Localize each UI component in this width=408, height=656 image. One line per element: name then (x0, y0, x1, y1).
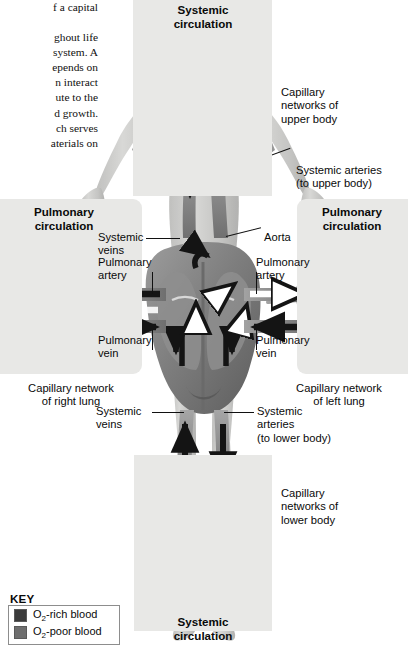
key-legend-label-o2-poor: O2-poor blood (33, 625, 102, 640)
label-line: networks of (281, 99, 338, 111)
label-line: (to upper body) (296, 177, 372, 189)
label-line: vein (98, 347, 119, 359)
label-line: vein (256, 347, 277, 359)
label-capillary-networks-lower-body: Capillary networks of lower body (281, 487, 397, 527)
swatch-o2-rich-blood (14, 609, 27, 622)
body-text-line: system. A (0, 45, 98, 60)
key-legend-title: KEY (10, 592, 34, 605)
label-line: Systemic (96, 405, 141, 417)
label-line: Capillary network (28, 382, 114, 394)
label-line: Systemic arteries (296, 164, 382, 176)
label-line: Systemic (257, 405, 302, 417)
panel-systemic-circulation-lower (134, 455, 272, 631)
label-pulmonary-artery-right: Pulmonary artery (256, 256, 330, 283)
label-line: circulation (35, 219, 94, 232)
label-line: artery (98, 269, 127, 281)
label-line: Pulmonary (98, 334, 151, 346)
key-legend-label-o2-rich: O2-rich blood (33, 608, 97, 623)
label-systemic-veins-upper: Systemic veins (98, 231, 168, 258)
label-line: Pulmonary (98, 256, 151, 268)
label-line: Pulmonary (34, 205, 94, 218)
body-text-line: ute to the (0, 90, 98, 105)
label-line: Systemic (178, 3, 229, 16)
label-line: upper body (281, 113, 337, 125)
label-line: veins (96, 418, 122, 430)
label-line: Capillary (281, 86, 325, 98)
key-legend: KEY O2-rich blood O2-poor blood (8, 592, 121, 646)
label-systemic-arteries-upper-body: Systemic arteries (to upper body) (296, 164, 408, 191)
label-line: Systemic (178, 615, 229, 628)
body-text-column: f a capital ghout life system. A epends … (0, 0, 98, 151)
label-line: circulation (174, 17, 233, 30)
label-systemic-veins-lower: Systemic veins (96, 405, 166, 432)
label-pulmonary-circulation-right: Pulmonary circulation (302, 205, 402, 233)
label-aorta: Aorta (264, 231, 324, 244)
label-line: Pulmonary (256, 334, 309, 346)
label-line: veins (98, 244, 124, 256)
label-line: Systemic (98, 231, 143, 243)
body-text-line: d growth. (0, 106, 98, 121)
label-systemic-circulation-top: Systemic circulation (150, 3, 256, 31)
label-pulmonary-circulation-left: Pulmonary circulation (12, 205, 116, 233)
label-pulmonary-vein-left: Pulmonary vein (98, 334, 172, 361)
label-line: arteries (257, 418, 294, 430)
label-systemic-arteries-lower-body: Systemic arteries (to lower body) (257, 405, 361, 445)
label-line: Pulmonary (256, 256, 309, 268)
leader-systemic-arteries-lower (224, 412, 254, 413)
label-pulmonary-artery-left: Pulmonary artery (98, 256, 172, 283)
label-line: lower body (281, 514, 335, 526)
label-line: Pulmonary (322, 205, 382, 218)
body-text-line: epends on (0, 60, 98, 75)
label-line: Capillary (281, 487, 325, 499)
body-text-line: ghout life (0, 30, 98, 45)
label-capillary-networks-upper-body: Capillary networks of upper body (281, 86, 401, 126)
label-line: circulation (174, 629, 233, 642)
label-line: artery (256, 269, 285, 281)
label-line: Capillary network (296, 382, 382, 394)
label-line: of right lung (42, 395, 100, 407)
body-text-line: f a capital (0, 0, 98, 15)
label-pulmonary-vein-right: Pulmonary vein (256, 334, 330, 361)
body-text-line: n interact (0, 75, 98, 90)
body-text-line: aterials on (0, 136, 98, 151)
label-line: networks of (281, 500, 338, 512)
paragraph-gap (0, 15, 98, 30)
label-systemic-circulation-bottom: Systemic circulation (150, 615, 256, 643)
label-line: (to lower body) (257, 432, 331, 444)
swatch-o2-poor-blood (14, 626, 27, 639)
label-line: circulation (323, 219, 382, 232)
label-line: Aorta (264, 231, 291, 243)
body-text-line: ch serves (0, 121, 98, 136)
